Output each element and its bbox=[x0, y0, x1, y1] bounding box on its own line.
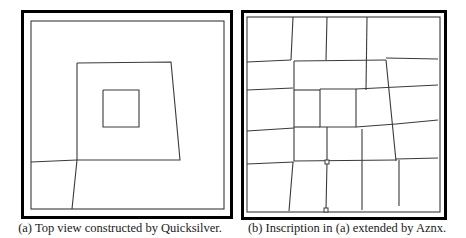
extended-inscription-diagram bbox=[0, 0, 466, 238]
wall-line bbox=[326, 17, 327, 60]
caption-b: (b) Inscription in (a) extended by Aznx. bbox=[236, 221, 458, 236]
wall-line bbox=[247, 88, 293, 90]
caption-a: (a) Top view constructed by Quicksilver. bbox=[0, 221, 240, 236]
wall-line bbox=[366, 17, 367, 90]
figure-panel-b bbox=[0, 0, 466, 238]
wall-line bbox=[294, 60, 386, 61]
wall-line bbox=[289, 162, 293, 211]
wall-line bbox=[386, 60, 396, 161]
node-marker bbox=[324, 208, 328, 212]
wall-line bbox=[320, 89, 356, 127]
wall-line bbox=[294, 160, 396, 161]
node-marker bbox=[325, 160, 329, 164]
wall-line bbox=[291, 17, 293, 60]
wall-line bbox=[396, 120, 438, 124]
wall-line bbox=[247, 60, 291, 62]
wall-line bbox=[386, 58, 438, 59]
inner-frame bbox=[247, 17, 440, 212]
outer-frame bbox=[243, 12, 446, 219]
wall-line bbox=[247, 162, 294, 164]
wall-line bbox=[356, 124, 396, 127]
wall-line bbox=[247, 128, 294, 131]
wall-line bbox=[356, 85, 438, 89]
wall-line bbox=[396, 158, 438, 159]
wall-line bbox=[326, 162, 327, 210]
